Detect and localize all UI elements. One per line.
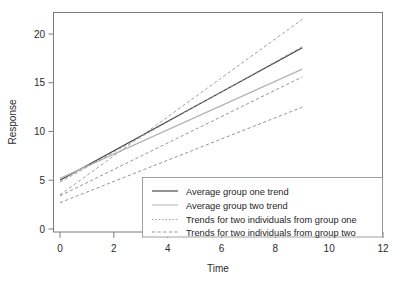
x-tick-label: 4: [165, 243, 171, 254]
y-tick-label: 10: [34, 126, 46, 137]
line-chart: 05101520 024681012 Time Response Average…: [0, 0, 403, 293]
y-axis: 05101520: [34, 29, 54, 235]
x-tick-label: 0: [57, 243, 63, 254]
x-tick-label: 2: [111, 243, 117, 254]
series-line: [60, 19, 302, 195]
legend-label: Average group one trend: [186, 187, 289, 197]
y-tick-label: 0: [39, 224, 45, 235]
y-tick-label: 5: [39, 175, 45, 186]
y-axis-title: Response: [7, 99, 18, 144]
chart-legend: Average group one trendAverage group two…: [143, 178, 383, 238]
x-axis-title: Time: [207, 263, 229, 274]
y-tick-label: 20: [34, 29, 46, 40]
x-tick-label: 12: [377, 243, 389, 254]
x-tick-label: 10: [324, 243, 336, 254]
legend-label: Trends for two individuals from group on…: [186, 215, 357, 225]
chart-container: 05101520 024681012 Time Response Average…: [0, 0, 403, 293]
legend-label: Average group two trend: [186, 201, 288, 211]
series-lines: [60, 19, 302, 202]
x-tick-label: 8: [273, 243, 279, 254]
legend-label: Trends for two individuals from group tw…: [186, 228, 356, 238]
y-tick-label: 15: [34, 77, 46, 88]
x-tick-label: 6: [219, 243, 225, 254]
